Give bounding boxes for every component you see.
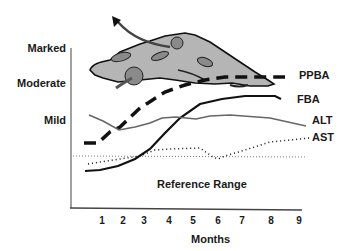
x-axis-title: Months xyxy=(191,233,230,245)
x-tick-8: 8 xyxy=(265,215,277,226)
x-tick-6: 6 xyxy=(212,215,224,226)
x-axis xyxy=(70,208,302,210)
x-tick-9: 9 xyxy=(293,215,305,226)
x-tick-1: 1 xyxy=(96,215,108,226)
legend-alt: ALT xyxy=(312,114,333,126)
series-ast xyxy=(88,138,310,164)
x-tick-4: 4 xyxy=(163,215,175,226)
reference-range-label: Reference Range xyxy=(157,178,247,190)
y-label-mild: Mild xyxy=(0,114,66,126)
x-tick-3: 3 xyxy=(138,215,150,226)
x-tick-7: 7 xyxy=(236,215,248,226)
x-tick-2: 2 xyxy=(117,215,129,226)
series-ppba xyxy=(84,77,285,143)
legend-ast: AST xyxy=(312,131,334,143)
x-tick-5: 5 xyxy=(187,215,199,226)
y-label-moderate: Moderate xyxy=(0,77,66,89)
y-label-marked: Marked xyxy=(0,42,66,54)
reference-line xyxy=(73,156,306,157)
legend-fba: FBA xyxy=(297,93,320,105)
series-fba xyxy=(85,96,281,171)
legend-ppba: PPBA xyxy=(299,69,330,81)
